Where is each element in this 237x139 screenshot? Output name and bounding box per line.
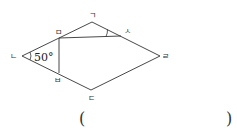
answer-close-paren: )	[226, 109, 232, 128]
angle-arc-nieun	[30, 52, 31, 60]
angle-label: 50°	[34, 51, 54, 64]
vertex-label-nieun: ㄴ	[10, 52, 17, 61]
vertex-label-siot: ㅅ	[124, 27, 131, 36]
angle-arc-siot	[106, 30, 108, 37]
rhombus-diagram: 50° ㄱ ㄴ ㄷ ㄹ ㅁ ㅂ ㅅ	[0, 0, 237, 139]
vertex-label-rieul: ㄹ	[162, 52, 169, 61]
vertex-label-bieup: ㅂ	[54, 76, 61, 85]
vertex-label-digeut: ㄷ	[88, 94, 95, 103]
segment-mieum-siot	[59, 36, 121, 38]
vertex-label-giyeok: ㄱ	[89, 11, 96, 20]
answer-open-paren: (	[79, 109, 85, 128]
vertex-label-mieum: ㅁ	[55, 28, 62, 37]
